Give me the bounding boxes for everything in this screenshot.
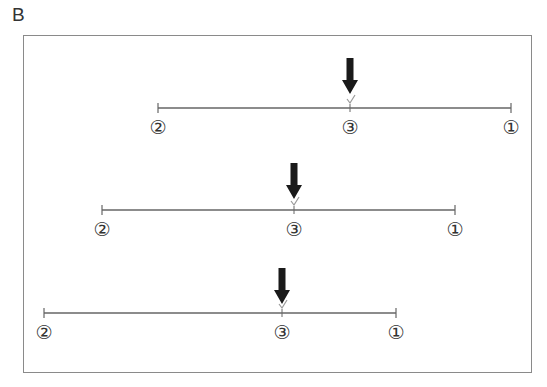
check-mark-icon	[291, 197, 299, 205]
circled-number-label: ③	[339, 117, 361, 139]
circled-number-label: ③	[271, 322, 293, 344]
check-mark-icon	[347, 95, 355, 103]
circled-number-label: ②	[33, 322, 55, 344]
circled-number-label: ②	[91, 219, 113, 241]
circled-number-label: ③	[283, 219, 305, 241]
circled-number-label: ②	[147, 117, 169, 139]
down-arrow-icon	[274, 268, 290, 304]
circled-number-label: ①	[500, 117, 522, 139]
scale-row-1	[158, 58, 511, 113]
circled-number-label: ①	[385, 322, 407, 344]
scale-row-2	[102, 163, 455, 215]
circled-number-label: ①	[444, 219, 466, 241]
scale-row-3	[44, 268, 396, 318]
down-arrow-icon	[342, 58, 358, 94]
down-arrow-icon	[286, 163, 302, 199]
